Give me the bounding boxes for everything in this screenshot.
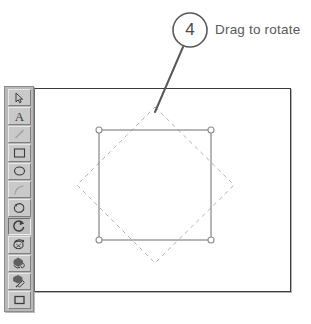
screenshot-root: 4 Drag to rotate A — [0, 0, 311, 324]
rectangle-icon — [12, 146, 27, 160]
tool-button-fill-swatch[interactable] — [8, 291, 31, 308]
callout-leader-line — [155, 47, 183, 112]
eyedropper-icon — [11, 274, 27, 289]
tool-button-freeform[interactable] — [8, 199, 31, 216]
callout-label: Drag to rotate — [215, 21, 300, 39]
tool-button-eyedropper[interactable] — [8, 273, 31, 290]
rotate-3d-icon — [11, 237, 27, 252]
freeform-shape-icon — [12, 201, 27, 215]
vector-layer — [0, 0, 311, 324]
rotate-icon — [11, 219, 27, 234]
arrow-pointer-icon — [12, 91, 27, 105]
handle-top-right[interactable] — [208, 127, 214, 133]
callout-number: 4 — [172, 12, 208, 48]
tool-button-fill[interactable] — [8, 255, 31, 272]
handle-bottom-left[interactable] — [96, 237, 102, 243]
tool-button-arc[interactable] — [8, 181, 31, 198]
arc-icon — [12, 183, 27, 197]
handle-bottom-right[interactable] — [208, 237, 214, 243]
text-a-icon: A — [12, 109, 27, 123]
fill-swatch-icon — [12, 293, 27, 307]
tool-button-select[interactable] — [8, 89, 31, 106]
paint-bucket-icon — [11, 256, 27, 271]
line-icon — [12, 127, 27, 141]
selection-handles[interactable] — [96, 127, 214, 243]
tool-button-text[interactable]: A — [8, 107, 31, 124]
handle-top-left[interactable] — [96, 127, 102, 133]
ellipse-icon — [12, 164, 27, 178]
tool-button-rotate-3d[interactable] — [8, 236, 31, 253]
svg-text:A: A — [14, 109, 24, 123]
tool-button-ellipse[interactable] — [8, 163, 31, 180]
tool-button-rectangle[interactable] — [8, 144, 31, 161]
tool-button-line[interactable] — [8, 126, 31, 143]
tool-button-rotate[interactable] — [8, 218, 31, 235]
drawing-toolbar[interactable]: A — [4, 86, 34, 312]
